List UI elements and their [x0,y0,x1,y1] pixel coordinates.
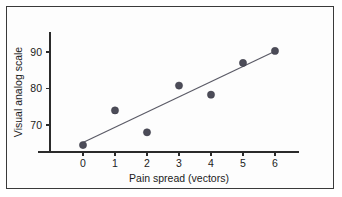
data-point-marker [271,47,278,54]
y-axis-title: Visual analog scale [12,47,24,137]
data-point-marker [207,91,214,98]
y-tick-label: 90 [30,46,42,58]
y-tick-label: 80 [30,82,42,94]
x-tick-label: 0 [80,157,86,169]
x-tick-label: 3 [176,157,182,169]
y-tick-label: 70 [30,119,42,131]
x-tick-label: 6 [272,157,278,169]
data-point-marker [175,82,182,89]
x-tick-label: 2 [144,157,150,169]
x-tick-label: 4 [208,157,214,169]
data-point-marker [239,59,246,66]
data-points [79,47,278,148]
axes [38,32,299,152]
data-point-marker [143,129,150,136]
x-tick-label: 5 [240,157,246,169]
data-point-marker [111,107,118,114]
x-axis-title: Pain spread (vectors) [129,172,229,184]
data-point-marker [79,141,86,148]
scatter-plot: 7080900123456 Pain spread (vectors) Visu… [0,0,342,197]
x-tick-label: 1 [112,157,118,169]
